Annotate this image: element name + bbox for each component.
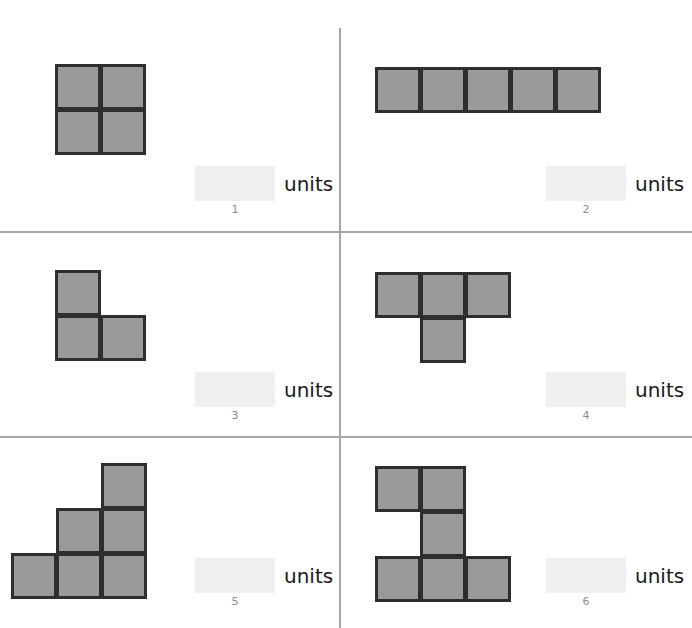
answer-row: units xyxy=(195,166,333,201)
units-label: units xyxy=(635,174,684,194)
answer-row: units xyxy=(195,558,333,593)
answer-input-box[interactable] xyxy=(546,372,626,407)
unit-square xyxy=(101,508,147,554)
answer-input-box[interactable] xyxy=(546,166,626,201)
unit-square xyxy=(375,272,421,318)
figure-one-by-five-row xyxy=(375,67,600,112)
unit-square xyxy=(375,466,421,512)
unit-square xyxy=(11,553,57,599)
unit-square xyxy=(55,315,101,361)
problem-number: 6 xyxy=(546,595,626,608)
units-label: units xyxy=(635,566,684,586)
units-label: units xyxy=(284,174,333,194)
unit-square xyxy=(465,272,511,318)
answer-row: units xyxy=(546,558,684,593)
unit-square xyxy=(101,553,147,599)
unit-square xyxy=(375,67,421,113)
figure-two-by-two-square xyxy=(55,64,145,154)
unit-square xyxy=(555,67,601,113)
unit-square xyxy=(55,109,101,155)
horizontal-divider xyxy=(0,231,692,233)
unit-square xyxy=(100,109,146,155)
problem-number: 3 xyxy=(195,409,275,422)
problem-number: 4 xyxy=(546,409,626,422)
unit-square xyxy=(420,466,466,512)
problem-number: 1 xyxy=(195,203,275,216)
unit-square xyxy=(420,556,466,602)
problem-number: 5 xyxy=(195,595,275,608)
unit-square xyxy=(56,553,102,599)
unit-square xyxy=(465,556,511,602)
unit-square xyxy=(420,272,466,318)
unit-square xyxy=(55,270,101,316)
unit-square xyxy=(100,315,146,361)
horizontal-divider xyxy=(0,436,692,438)
figure-l-shape xyxy=(55,270,145,360)
unit-square xyxy=(375,556,421,602)
unit-square xyxy=(465,67,511,113)
answer-row: units xyxy=(546,372,684,407)
vertical-divider xyxy=(339,28,341,628)
units-label: units xyxy=(284,380,333,400)
answer-row: units xyxy=(546,166,684,201)
units-label: units xyxy=(635,380,684,400)
unit-square xyxy=(510,67,556,113)
unit-square xyxy=(420,511,466,557)
units-label: units xyxy=(284,566,333,586)
unit-square xyxy=(55,64,101,110)
answer-input-box[interactable] xyxy=(195,166,275,201)
answer-row: units xyxy=(195,372,333,407)
figure-z-shape xyxy=(375,466,510,601)
problem-number: 2 xyxy=(546,203,626,216)
answer-input-box[interactable] xyxy=(546,558,626,593)
unit-square xyxy=(420,317,466,363)
figure-t-shape xyxy=(375,272,510,362)
unit-square xyxy=(56,508,102,554)
figure-staircase-shape xyxy=(11,463,146,598)
unit-square xyxy=(420,67,466,113)
unit-square xyxy=(100,64,146,110)
answer-input-box[interactable] xyxy=(195,372,275,407)
unit-square xyxy=(101,463,147,509)
answer-input-box[interactable] xyxy=(195,558,275,593)
worksheet-page: units1units2units3units4units5units6 xyxy=(0,0,692,628)
